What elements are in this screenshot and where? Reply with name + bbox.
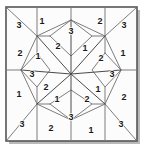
digit-corner-bl-outer: 3 [19, 119, 24, 129]
digit-bottom-right-peak: 1 [88, 125, 93, 135]
digit-right-diamond: 3 [109, 69, 114, 79]
digit-bottom-diamond: 3 [68, 112, 73, 122]
digit-edge-left-lower: 1 [16, 89, 21, 99]
digit-edge-right-upper: 1 [120, 48, 125, 58]
digit-edge-right-lower: 2 [121, 92, 126, 102]
digit-top-diamond: 3 [68, 26, 73, 36]
digit-top-right-peak: 2 [97, 16, 102, 26]
digit-corner-tr-outer: 3 [121, 20, 126, 30]
digit-left-upper-wedge: 1 [35, 51, 40, 61]
digit-corner-tl-outer: 3 [16, 20, 21, 30]
digit-upper-right-inner: 1 [82, 43, 87, 53]
digit-bottom-left-peak: 2 [48, 123, 53, 133]
digit-upper-left-inner: 2 [55, 41, 60, 51]
digit-right-upper-wedge: 2 [98, 53, 103, 63]
digit-left-diamond: 3 [29, 69, 34, 79]
digit-lower-left-inner: 2 [43, 82, 48, 92]
digit-right-lower-wedge: 2 [84, 94, 89, 104]
digit-lower-right-inner: 1 [95, 84, 100, 94]
puzzle-diagram: 3 1 3 2 3 2 1 1 2 2 1 3 3 2 1 1 2 1 2 3 … [0, 0, 143, 148]
digit-corner-br-outer: 3 [118, 119, 123, 129]
puzzle-figure: 3 1 3 2 3 2 1 1 2 2 1 3 3 2 1 1 2 1 2 3 … [0, 0, 143, 148]
digit-left-lower-wedge: 1 [54, 94, 59, 104]
digit-edge-left-upper: 2 [17, 48, 22, 58]
digit-top-left-peak: 1 [39, 16, 44, 26]
